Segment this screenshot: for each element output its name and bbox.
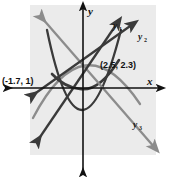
- y-axis-label: y: [86, 5, 93, 17]
- curve-label-y1-subscript: 1: [119, 26, 122, 32]
- x-axis-label: x: [146, 75, 153, 87]
- graph-figure: y x y 1 y 2 y 3 (-1.7, 1) (2.5, 2.3): [0, 0, 175, 182]
- curve-label-y3-subscript: 3: [139, 125, 142, 131]
- curve-label-y2-subscript: 2: [144, 37, 147, 43]
- curve-label-y1: y: [112, 21, 118, 31]
- curve-label-y2: y: [137, 32, 143, 42]
- annotation-point-left: (-1.7, 1): [2, 76, 34, 86]
- coordinate-plot: y x y 1 y 2 y 3 (-1.7, 1) (2.5, 2.3): [0, 0, 175, 182]
- annotation-point-right: (2.5, 2.3): [100, 60, 136, 70]
- curve-label-y3: y: [132, 120, 138, 130]
